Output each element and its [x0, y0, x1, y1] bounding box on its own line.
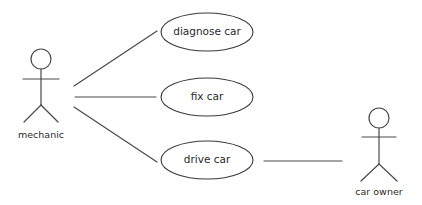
actor-left-leg — [361, 164, 379, 181]
association-mechanic-drive-car — [74, 107, 157, 162]
actor-label-mechanic: mechanic — [18, 129, 64, 140]
actor-car-owner: car owner — [355, 108, 402, 197]
use-case-drive-car: drive car — [161, 141, 253, 179]
actor-head — [31, 49, 51, 69]
actor-head — [369, 108, 389, 128]
use-case-label: fix car — [191, 90, 224, 102]
use-case-fix-car: fix car — [161, 78, 253, 116]
use-case-label: diagnose car — [173, 25, 241, 37]
actor-right-leg — [379, 164, 397, 181]
use-case-label: drive car — [184, 153, 231, 165]
actor-mechanic: mechanic — [18, 49, 64, 140]
actor-right-leg — [41, 105, 58, 122]
actor-label-car-owner: car owner — [355, 186, 402, 197]
association-mechanic-diagnose-car — [74, 31, 157, 86]
actor-left-leg — [24, 105, 41, 122]
use-case-diagram: mechanic diagnose car fix car drive car … — [0, 0, 422, 205]
use-case-diagnose-car: diagnose car — [161, 13, 253, 51]
